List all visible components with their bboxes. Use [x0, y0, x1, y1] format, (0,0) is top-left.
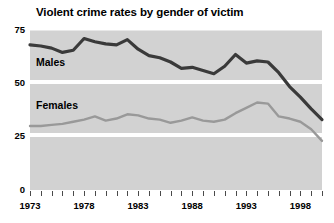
x-tick [300, 191, 301, 196]
x-tick [225, 191, 226, 196]
x-tick [52, 191, 53, 196]
x-tick-label: 1998 [290, 200, 311, 211]
x-tick-label: 1978 [74, 200, 95, 211]
x-tick [41, 191, 42, 196]
x-tick [322, 191, 323, 196]
y-tick-label-25: 25 [14, 131, 25, 140]
y-tick-label-75: 75 [14, 25, 25, 34]
x-tick [62, 191, 63, 196]
x-tick [181, 191, 182, 196]
x-tick [279, 191, 280, 196]
x-tick [236, 191, 237, 196]
x-tick [138, 191, 139, 196]
series-label-females: Females [36, 99, 78, 111]
x-tick [73, 191, 74, 196]
x-tick [117, 191, 118, 196]
x-tick [30, 191, 31, 196]
x-tick [214, 191, 215, 196]
violent-crime-rates-chart: Violent crime rates by gender of victim … [0, 0, 334, 223]
x-tick [171, 191, 172, 196]
x-tick-label: 1973 [19, 200, 40, 211]
x-tick [290, 191, 291, 196]
chart-title: Violent crime rates by gender of victim [36, 6, 243, 18]
y-tick-label-0: 0 [20, 185, 25, 194]
x-axis-ticks [30, 190, 322, 198]
x-tick-label: 1988 [182, 200, 203, 211]
x-tick [257, 191, 258, 196]
x-tick [268, 191, 269, 196]
x-tick [246, 191, 247, 196]
x-tick [149, 191, 150, 196]
y-tick-label-50: 50 [14, 78, 25, 87]
x-tick [311, 191, 312, 196]
x-tick [84, 191, 85, 196]
x-tick [127, 191, 128, 196]
x-tick [160, 191, 161, 196]
x-axis-labels: 197319781983198819931998 [0, 200, 334, 216]
x-tick [203, 191, 204, 196]
x-tick [106, 191, 107, 196]
x-tick [95, 191, 96, 196]
x-tick-label: 1993 [236, 200, 257, 211]
x-tick [192, 191, 193, 196]
y-axis: 75 50 25 0 [0, 0, 30, 223]
series-label-males: Males [36, 56, 65, 68]
x-tick-label: 1983 [128, 200, 149, 211]
